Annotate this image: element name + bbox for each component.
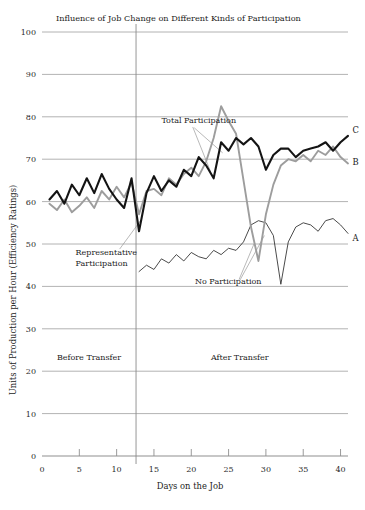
endpoint-label-c: C bbox=[352, 125, 358, 135]
x-tick-label-25: 25 bbox=[223, 465, 233, 474]
x-tick-label-10: 10 bbox=[112, 465, 122, 474]
x-tick-label-30: 30 bbox=[261, 465, 271, 474]
endpoint-label-b: B bbox=[352, 157, 358, 167]
y-tick-label-70: 70 bbox=[26, 155, 36, 164]
y-tick-label-20: 20 bbox=[26, 367, 36, 376]
x-tick-label-20: 20 bbox=[186, 465, 196, 474]
y-axis-label: Units of Production per Hour (Efficiency… bbox=[8, 185, 18, 396]
annotation-leader-lines bbox=[120, 127, 265, 280]
y-tick-label-90: 90 bbox=[26, 70, 36, 79]
y-axis-tick-labels: 0102030405060708090100 bbox=[21, 28, 36, 461]
x-tick-label-0: 0 bbox=[39, 465, 44, 474]
y-tick-label-30: 30 bbox=[26, 325, 36, 334]
series-endpoint-labels: CBA bbox=[351, 125, 359, 244]
period-label-before-transfer: Before Transfer bbox=[57, 353, 121, 362]
leader-no-participation-1 bbox=[239, 244, 254, 280]
annotation-representative-participation: RepresentativeParticipation bbox=[76, 248, 138, 268]
y-tick-label-100: 100 bbox=[21, 28, 36, 37]
y-tick-label-0: 0 bbox=[31, 452, 36, 461]
chart-title: Influence of Job Change on Different Kin… bbox=[56, 13, 302, 23]
x-tick-label-15: 15 bbox=[149, 465, 159, 474]
y-tick-label-40: 40 bbox=[26, 282, 36, 291]
period-label-after-transfer: After Transfer bbox=[210, 353, 269, 362]
y-tick-label-80: 80 bbox=[26, 113, 36, 122]
series-line-b bbox=[49, 106, 348, 261]
annotation-total-participation: Total Participation bbox=[161, 116, 236, 125]
y-tick-label-10: 10 bbox=[26, 410, 36, 419]
line-chart: Influence of Job Change on Different Kin… bbox=[0, 0, 365, 510]
series-line-a bbox=[139, 219, 348, 285]
x-tick-label-35: 35 bbox=[298, 465, 308, 474]
endpoint-label-a: A bbox=[351, 233, 359, 243]
x-axis-label: Days on the Job bbox=[157, 481, 224, 491]
chart-container: Influence of Job Change on Different Kin… bbox=[0, 0, 365, 510]
x-axis-tick-labels: 0510152025303540 bbox=[39, 465, 345, 474]
series-line-c bbox=[49, 136, 348, 231]
y-tick-label-60: 60 bbox=[26, 198, 36, 207]
y-tick-label-50: 50 bbox=[26, 240, 36, 249]
x-axis-ticks bbox=[79, 449, 340, 456]
period-labels: Before TransferAfter Transfer bbox=[57, 353, 269, 362]
x-tick-label-5: 5 bbox=[77, 465, 82, 474]
gridlines bbox=[42, 32, 348, 456]
x-tick-label-40: 40 bbox=[335, 465, 345, 474]
leader-total-participation-2 bbox=[194, 128, 222, 153]
annotation-no-participation: No Participation bbox=[195, 277, 261, 286]
